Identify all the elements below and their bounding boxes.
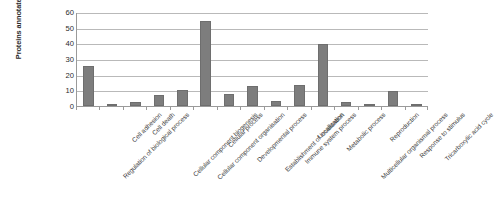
x-tick-mark <box>240 107 241 110</box>
bar[interactable] <box>411 104 422 106</box>
bar[interactable] <box>364 104 375 106</box>
y-axis-tick-label: 60 <box>66 9 74 17</box>
bar[interactable] <box>154 95 165 106</box>
bar[interactable] <box>130 102 141 106</box>
bar[interactable] <box>318 44 329 106</box>
y-axis-tick-labels: 0102030405060 <box>56 13 74 107</box>
bar[interactable] <box>294 85 305 106</box>
bar[interactable] <box>200 21 211 106</box>
x-tick-mark <box>123 107 124 110</box>
bar[interactable] <box>388 91 399 106</box>
x-tick-mark <box>217 107 218 110</box>
bar[interactable] <box>341 102 352 106</box>
bar-slot <box>288 13 311 106</box>
x-tick-mark <box>311 107 312 110</box>
bar[interactable] <box>224 94 235 106</box>
bar-slot <box>100 13 123 106</box>
bar-slot <box>194 13 217 106</box>
bar-slot <box>311 13 334 106</box>
y-axis-title: Proteins annotated (%) <box>14 0 26 68</box>
y-axis-tick-label: 20 <box>66 72 74 80</box>
bars-group <box>77 13 428 106</box>
bar[interactable] <box>271 101 282 106</box>
bar[interactable] <box>83 66 94 106</box>
bar[interactable] <box>247 86 258 106</box>
y-axis-tick-label: 50 <box>66 25 74 33</box>
x-tick-mark <box>358 107 359 110</box>
y-axis-tick-label: 10 <box>66 88 74 96</box>
x-tick-mark <box>287 107 288 110</box>
bar-slot <box>358 13 381 106</box>
bar-slot <box>334 13 357 106</box>
plot-area <box>76 13 428 107</box>
x-tick-mark <box>193 107 194 110</box>
bar-slot <box>241 13 264 106</box>
bar-slot <box>77 13 100 106</box>
x-tick-mark <box>405 107 406 110</box>
bar-slot <box>405 13 428 106</box>
bar-slot <box>381 13 404 106</box>
x-tick-mark <box>146 107 147 110</box>
bar-slot <box>147 13 170 106</box>
x-tick-mark <box>264 107 265 110</box>
y-axis-tick-label: 40 <box>66 41 74 49</box>
x-axis-category-labels: Regulation of biological processCell adh… <box>76 111 428 201</box>
bar-slot <box>124 13 147 106</box>
bar-slot <box>264 13 287 106</box>
y-axis-tick-label: 30 <box>66 56 74 64</box>
x-axis-tick-end <box>427 107 428 110</box>
y-axis-tick-label: 0 <box>70 103 74 111</box>
bar[interactable] <box>177 90 188 106</box>
x-tick-mark <box>76 107 77 110</box>
bar-slot <box>171 13 194 106</box>
x-tick-mark <box>334 107 335 110</box>
bar[interactable] <box>107 104 118 106</box>
x-tick-mark <box>99 107 100 110</box>
x-axis-category-label: Tricarboxylic acid cycle <box>443 111 494 162</box>
bar-slot <box>217 13 240 106</box>
